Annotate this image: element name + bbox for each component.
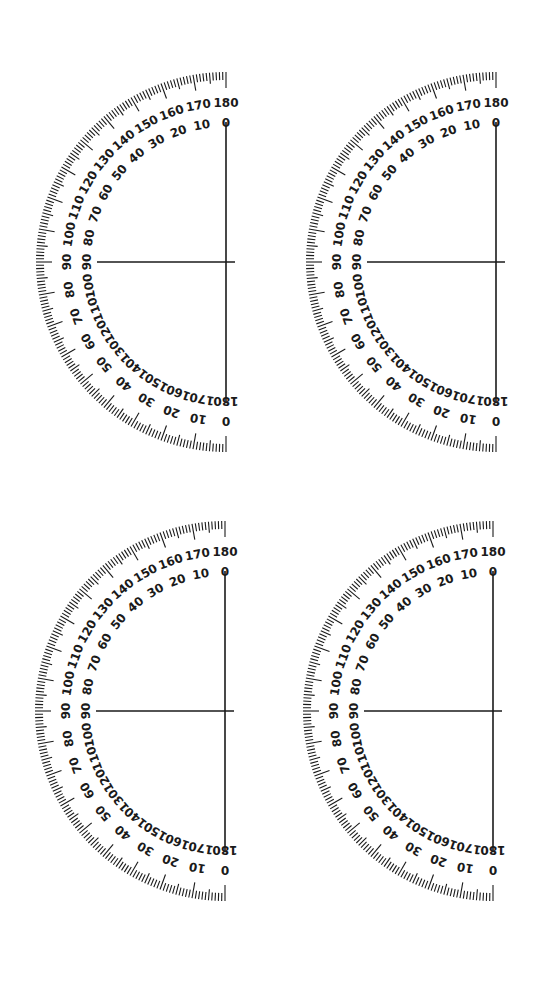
degree-label: 80 — [60, 729, 77, 748]
degree-label: 170 — [455, 839, 482, 857]
degree-label: 160 — [434, 382, 462, 404]
degree-label: 30 — [416, 131, 437, 151]
degree-label: 90 — [60, 254, 74, 271]
degree-label: 40 — [112, 822, 134, 843]
degree-label: 70 — [356, 204, 375, 224]
degree-label: 100 — [59, 670, 77, 697]
degree-label: 90 — [330, 254, 344, 271]
degree-label: 60 — [78, 331, 98, 352]
degree-label: 80 — [351, 228, 368, 247]
protractor-top-right: 1801701601501401301201101009080706050403… — [306, 72, 509, 452]
degree-label: 30 — [406, 389, 427, 409]
degree-label: 50 — [376, 611, 397, 633]
degree-label: 100 — [327, 670, 345, 697]
degree-label: 70 — [86, 204, 105, 224]
degree-label: 170 — [452, 545, 479, 563]
degree-label: 170 — [185, 96, 212, 114]
degree-label: 90 — [347, 703, 361, 720]
degree-label: 160 — [427, 102, 455, 124]
degree-label: 70 — [66, 755, 85, 775]
degree-label: 20 — [160, 851, 180, 870]
degree-label: 50 — [109, 162, 130, 184]
protractor-bottom-left: 1801701601501401301201101009080706050403… — [35, 521, 238, 901]
degree-label: 40 — [393, 594, 415, 615]
degree-label: 100 — [79, 722, 97, 749]
degree-label: 110 — [66, 193, 88, 221]
degree-label: 60 — [365, 182, 385, 203]
degree-label: 90 — [80, 254, 94, 271]
degree-label: 0 — [489, 863, 497, 877]
protractor-bottom-right: 1801701601501401301201101009080706050403… — [303, 521, 506, 901]
degree-label: 60 — [77, 780, 97, 801]
degree-label: 10 — [189, 410, 208, 427]
degree-label: 0 — [492, 414, 500, 428]
degree-label: 30 — [403, 838, 424, 858]
degree-label: 40 — [396, 145, 418, 166]
degree-label: 10 — [456, 859, 475, 876]
degree-label: 50 — [363, 353, 384, 375]
degree-label: 100 — [347, 722, 365, 749]
degree-label: 100 — [330, 221, 348, 248]
degree-label: 100 — [350, 273, 368, 300]
degree-label: 80 — [328, 729, 345, 748]
degree-label: 160 — [156, 551, 184, 573]
degree-label: 10 — [192, 117, 211, 134]
degree-label: 40 — [126, 145, 148, 166]
degree-label: 20 — [168, 122, 188, 141]
degree-label: 70 — [334, 755, 353, 775]
degree-label: 50 — [360, 802, 381, 824]
degree-label: 50 — [108, 611, 129, 633]
degree-label: 30 — [145, 580, 166, 600]
degree-label: 90 — [79, 703, 93, 720]
degree-label: 10 — [459, 410, 478, 427]
degree-label: 80 — [81, 228, 98, 247]
degree-label: 30 — [146, 131, 167, 151]
degree-label: 10 — [462, 117, 481, 134]
degree-label: 50 — [92, 802, 113, 824]
degree-label: 20 — [161, 402, 181, 421]
degree-label: 80 — [331, 280, 348, 299]
degree-label: 80 — [61, 280, 78, 299]
degree-label: 20 — [438, 122, 458, 141]
degree-label: 160 — [164, 382, 192, 404]
protractor-sheet: 1801701601501401301201101009080706050403… — [0, 0, 534, 982]
degree-label: 180 — [213, 96, 238, 110]
degree-label: 170 — [187, 839, 214, 857]
degree-label: 100 — [60, 221, 78, 248]
degree-label: 80 — [348, 677, 365, 696]
degree-label: 160 — [163, 831, 191, 853]
degree-label: 70 — [337, 306, 356, 326]
degree-label: 90 — [59, 703, 73, 720]
degree-label: 60 — [362, 631, 382, 652]
degree-label: 90 — [327, 703, 341, 720]
degree-label: 10 — [191, 566, 210, 583]
degree-label: 170 — [458, 390, 485, 408]
degree-label: 30 — [135, 838, 156, 858]
degree-label: 60 — [345, 780, 365, 801]
degree-label: 40 — [113, 373, 135, 394]
degree-label: 70 — [85, 653, 104, 673]
degree-label: 90 — [350, 254, 364, 271]
degree-label: 110 — [336, 193, 358, 221]
degree-label: 170 — [188, 390, 215, 408]
degree-label: 30 — [136, 389, 157, 409]
degree-label: 70 — [353, 653, 372, 673]
degree-label: 40 — [380, 822, 402, 843]
degree-label: 0 — [221, 863, 229, 877]
degree-label: 20 — [431, 402, 451, 421]
degree-label: 50 — [379, 162, 400, 184]
degree-label: 10 — [459, 566, 478, 583]
degree-label: 0 — [222, 414, 230, 428]
degree-label: 20 — [435, 571, 455, 590]
degree-label: 80 — [80, 677, 97, 696]
degree-label: 110 — [333, 642, 355, 670]
degree-label: 160 — [431, 831, 459, 853]
degree-label: 160 — [424, 551, 452, 573]
degree-label: 170 — [184, 545, 211, 563]
degree-label: 20 — [167, 571, 187, 590]
degree-label: 30 — [413, 580, 434, 600]
degree-label: 180 — [483, 96, 508, 110]
degree-label: 160 — [157, 102, 185, 124]
protractor-top-left: 1801701601501401301201101009080706050403… — [36, 72, 239, 452]
degree-label: 20 — [428, 851, 448, 870]
